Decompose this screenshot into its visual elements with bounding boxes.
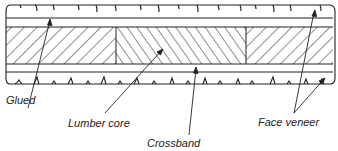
label-face-veneer: Face veneer xyxy=(258,116,320,128)
top-veneer-checks xyxy=(20,5,321,12)
bottom-veneer-checks xyxy=(15,77,324,84)
label-glued: Glued xyxy=(6,94,36,106)
core-block-middle xyxy=(116,27,246,64)
plywood-diagram: Glued Lumber core Crossband Face veneer xyxy=(0,0,338,151)
core-block-left xyxy=(6,27,116,64)
label-crossband: Crossband xyxy=(147,137,201,149)
lumber-core xyxy=(6,27,333,64)
label-lumber-core: Lumber core xyxy=(68,117,130,129)
core-block-right xyxy=(246,27,333,64)
